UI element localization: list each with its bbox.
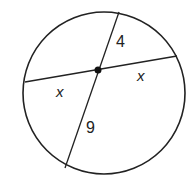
label-bottom-segment: 9 [86,119,95,136]
chord-diagram: 4 9 x x [0,0,196,189]
label-left-segment: x [55,83,64,100]
intersection-point [95,67,102,74]
label-top-segment: 4 [116,33,125,50]
label-right-segment: x [136,67,145,84]
circle [23,12,185,174]
chord-vertical [65,12,119,168]
